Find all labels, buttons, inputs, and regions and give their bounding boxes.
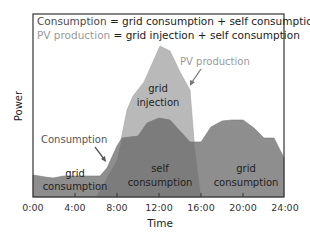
x-tick-0: 0:00 <box>22 202 43 213</box>
region-label-grid-injection-2: injection <box>137 97 180 108</box>
region-label-self-consumption-2: consumption <box>128 177 193 188</box>
x-tick-20: 20:00 <box>229 202 256 213</box>
region-label-grid-injection: grid <box>148 83 168 94</box>
annotation-pv-production: PV production <box>180 56 250 67</box>
legend-line-2: PV production = grid injection + self co… <box>37 29 300 41</box>
legend-line-1: Consumption = grid consumption + self co… <box>37 15 310 27</box>
x-tick-16: 16:00 <box>187 202 214 213</box>
x-axis-label: Time <box>146 217 173 229</box>
annotation-consumption: Consumption <box>41 134 107 145</box>
region-label-grid-consumption-left-2: consumption <box>43 181 108 192</box>
power-chart: Consumption = grid consumption + self co… <box>0 0 310 240</box>
region-label-grid-consumption-right: grid <box>236 163 256 174</box>
x-tick-4: 4:00 <box>64 202 85 213</box>
region-label-grid-consumption-left: grid <box>65 168 85 179</box>
region-label-grid-consumption-right-2: consumption <box>214 177 279 188</box>
x-tick-24: 24:00 <box>271 202 298 213</box>
region-label-self-consumption: self <box>151 163 169 174</box>
x-tick-12: 12:00 <box>145 202 172 213</box>
x-tick-8: 8:00 <box>106 202 127 213</box>
x-tick-labels: 0:00 4:00 8:00 12:00 16:00 20:00 24:00 <box>22 202 298 213</box>
y-axis-label: Power <box>13 90 24 121</box>
